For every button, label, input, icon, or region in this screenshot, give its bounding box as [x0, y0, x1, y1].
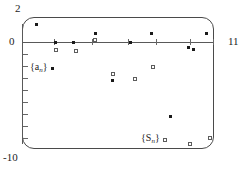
data-point-s3 — [74, 49, 78, 53]
data-point-a9 — [187, 46, 190, 49]
y-tick-1 — [23, 66, 28, 67]
legend-s-n-square-icon — [163, 138, 167, 142]
legend-series-s-n: {Sn} — [141, 133, 167, 144]
y-axis-max-label: 2 — [15, 3, 21, 14]
x-axis-max-label: 11 — [228, 36, 239, 47]
x-tick-5 — [213, 39, 214, 45]
data-point-a3 — [72, 41, 75, 44]
y-tick-3 — [23, 90, 28, 91]
data-point-a6 — [129, 41, 132, 44]
data-point-s7 — [151, 65, 155, 69]
y-axis-min-label: -10 — [3, 152, 18, 163]
data-point-s6 — [133, 77, 137, 81]
data-point-a10 — [192, 48, 195, 51]
data-point-s10 — [208, 136, 212, 140]
data-point-s9 — [188, 142, 192, 146]
y-tick-4 — [23, 102, 28, 103]
data-point-a4 — [94, 32, 97, 35]
legend-s-n-text: {Sn} — [141, 133, 160, 144]
legend-a-n-dot-icon — [51, 67, 54, 70]
data-point-a8 — [169, 115, 172, 118]
legend-a-n-text: {an} — [30, 62, 48, 73]
x-axis-line — [23, 42, 214, 43]
sequence-scatter-plot: 2 0 -10 11 {an} {Sn} — [0, 0, 247, 169]
x-tick-4 — [190, 39, 191, 45]
data-point-a2 — [54, 41, 57, 44]
data-point-a11 — [205, 32, 208, 35]
data-point-s4 — [93, 38, 97, 42]
data-point-a1 — [35, 23, 38, 26]
x-tick-3 — [156, 39, 157, 45]
y-tick-2 — [23, 78, 28, 79]
y-tick-7 — [23, 138, 28, 139]
data-point-s2 — [54, 48, 58, 52]
data-point-a5 — [111, 79, 114, 82]
data-point-a7 — [150, 32, 153, 35]
y-tick-5 — [23, 114, 28, 115]
y-tick-0 — [23, 54, 28, 55]
y-axis-zero-label: 0 — [9, 36, 15, 47]
plot-frame — [22, 17, 214, 149]
y-tick-6 — [23, 126, 28, 127]
data-point-s5 — [111, 72, 115, 76]
legend-series-a-n: {an} — [30, 62, 54, 73]
